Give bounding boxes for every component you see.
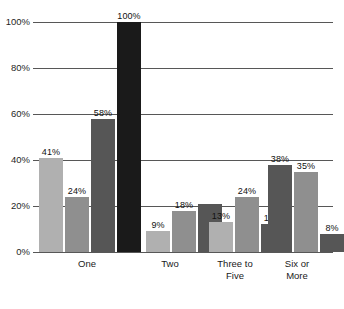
x-category-label: Six or More — [252, 258, 342, 281]
gridline-60 — [33, 114, 333, 115]
bar — [117, 22, 141, 252]
bar — [268, 165, 292, 252]
gridline-0 — [33, 252, 333, 253]
y-tick-label: 40% — [0, 154, 30, 165]
y-tick-label: 0% — [0, 246, 30, 257]
y-tick-label: 20% — [0, 200, 30, 211]
y-tick-label: 80% — [0, 62, 30, 73]
bar-value-label: 13% — [212, 211, 230, 221]
bar — [235, 197, 259, 252]
x-category-label: One — [42, 258, 132, 270]
y-tick-label: 60% — [0, 108, 30, 119]
bar-value-label: 8% — [325, 223, 338, 233]
bar — [172, 211, 196, 252]
bar-value-label: 35% — [297, 161, 315, 171]
bar-value-label: 24% — [68, 186, 86, 196]
bar — [39, 158, 63, 252]
bar — [146, 231, 170, 252]
bar-value-label: 100% — [117, 11, 140, 21]
plot-area: 41%24%58%100%9%18%13%24%12%38%35%8% — [33, 22, 333, 252]
bar-value-label: 9% — [151, 220, 164, 230]
gridline-80 — [33, 68, 333, 69]
bar-value-label: 18% — [175, 200, 193, 210]
bar-value-label: 41% — [42, 147, 60, 157]
bar — [65, 197, 89, 252]
gridline-100 — [33, 22, 333, 23]
bar-value-label: 24% — [238, 186, 256, 196]
bar — [91, 119, 115, 252]
bar-value-label: 38% — [271, 154, 289, 164]
y-tick-label: 100% — [0, 16, 30, 27]
bar — [294, 172, 318, 253]
bar — [209, 222, 233, 252]
bar — [320, 234, 344, 252]
y-axis-ticks: 0%20%40%60%80%100% — [0, 22, 30, 252]
bar-value-label: 58% — [94, 108, 112, 118]
